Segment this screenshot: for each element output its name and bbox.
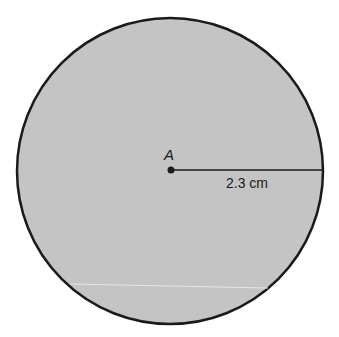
circle-diagram: A 2.3 cm <box>0 0 339 337</box>
radius-label: 2.3 cm <box>226 175 268 191</box>
center-label: A <box>163 146 174 163</box>
center-point <box>168 167 175 174</box>
